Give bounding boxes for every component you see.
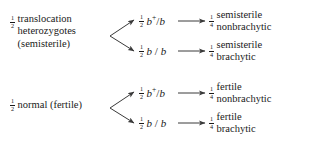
gamete-heterozygote-b-plus-slash-b: 1 2 b+/b (139, 14, 165, 29)
progeny-semisterile-brachytic: 1 4 semisterile brachytic (209, 39, 262, 64)
genotype-label: b+/b (147, 15, 165, 28)
progeny-label: fertile brachytic (217, 111, 256, 136)
fraction-one-half: 1 2 (10, 98, 15, 113)
label-line: fertile (217, 111, 256, 123)
allele-right: b (161, 117, 167, 129)
parent-normal-label: normal (fertile) (18, 99, 82, 111)
label-line: brachytic (217, 123, 256, 135)
label-line: (semisterile) (18, 38, 76, 50)
fraction-one-half: 1 2 (139, 116, 144, 131)
fraction-denominator: 2 (139, 52, 144, 59)
label-line: semisterile (217, 9, 272, 21)
progeny-label: semisterile brachytic (217, 39, 263, 64)
branch-arrow-translocation-to-bplusb (110, 20, 134, 36)
fraction-denominator: 2 (139, 22, 144, 29)
allele-right: b (161, 45, 167, 57)
allele-right: b (159, 15, 165, 27)
allele-separator: / (152, 45, 161, 57)
allele-separator: / (152, 117, 161, 129)
label-line: nonbrachytic (217, 93, 272, 105)
fraction-denominator: 4 (209, 124, 214, 131)
allele-right: b (159, 87, 165, 99)
fraction-one-half: 1 2 (139, 14, 144, 29)
branch-arrow-normal-to-bplusb (110, 92, 134, 108)
gamete-heterozygote-b-slash-b: 1 2 b / b (139, 44, 166, 59)
fraction-one-quarter: 1 4 (209, 86, 214, 101)
fraction-denominator: 4 (209, 52, 214, 59)
fraction-one-half: 1 2 (139, 86, 144, 101)
label-line: brachytic (217, 51, 263, 63)
branch-arrow-translocation-to-bb (110, 36, 134, 51)
fraction-one-quarter: 1 4 (209, 116, 214, 131)
fraction-denominator: 2 (10, 106, 15, 113)
gamete-normal-b-plus-slash-b: 1 2 b+/b (139, 86, 165, 101)
genotype-label: b / b (147, 117, 167, 130)
label-line: fertile (217, 81, 272, 93)
progeny-semisterile-nonbrachytic: 1 4 semisterile nonbrachytic (209, 9, 271, 34)
progeny-label: fertile nonbrachytic (217, 81, 272, 106)
label-line: heterozygotes (18, 25, 76, 37)
progeny-fertile-brachytic: 1 4 fertile brachytic (209, 111, 256, 136)
parent-translocation-label: translocation heterozygotes (semisterile… (18, 13, 76, 50)
label-line: translocation (18, 13, 76, 25)
fraction-denominator: 4 (209, 94, 214, 101)
fraction-one-half: 1 2 (139, 44, 144, 59)
genetics-cross-diagram: 1 2 translocation heterozygotes (semiste… (0, 0, 309, 149)
genotype-label: b / b (147, 45, 167, 58)
parent-translocation-heterozygotes: 1 2 translocation heterozygotes (semiste… (10, 13, 76, 50)
progeny-label: semisterile nonbrachytic (217, 9, 272, 34)
label-line: semisterile (217, 39, 263, 51)
fraction-one-half: 1 2 (10, 15, 15, 30)
branch-arrow-normal-to-bb (110, 108, 134, 123)
fraction-one-quarter: 1 4 (209, 44, 214, 59)
fraction-denominator: 4 (209, 22, 214, 29)
label-line: normal (fertile) (18, 99, 82, 111)
fraction-denominator: 2 (139, 94, 144, 101)
label-line: nonbrachytic (217, 21, 272, 33)
fraction-one-quarter: 1 4 (209, 14, 214, 29)
genotype-label: b+/b (147, 87, 165, 100)
gamete-normal-b-slash-b: 1 2 b / b (139, 116, 166, 131)
parent-normal-fertile: 1 2 normal (fertile) (10, 98, 82, 113)
progeny-fertile-nonbrachytic: 1 4 fertile nonbrachytic (209, 81, 271, 106)
fraction-denominator: 2 (139, 124, 144, 131)
fraction-denominator: 2 (10, 23, 15, 30)
